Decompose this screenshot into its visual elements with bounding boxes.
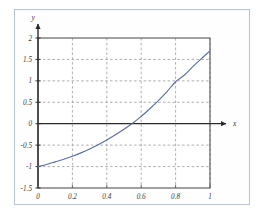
y-tick-label: -0.5 [21,142,33,150]
y-axis-label: y [31,13,36,22]
y-tick-label: 1.5 [23,56,32,64]
plot-area-background [38,38,210,188]
y-tick-label: 2 [28,35,32,43]
x-tick-label: 1 [208,193,212,201]
y-tick-label: -1.5 [21,185,33,193]
chart-canvas: 00.20.40.60.81 -1.5-1-0.500.511.52 y x [0,0,265,216]
x-tick-label: 0.4 [102,193,111,201]
x-axis-label: x [232,119,237,128]
y-tick-label: 0 [28,120,32,128]
figure-root: 00.20.40.60.81 -1.5-1-0.500.511.52 y x [0,0,265,216]
x-tick-label: 0.2 [68,193,77,201]
y-tick-label: 1 [28,77,32,85]
x-tick-label: 0.6 [137,193,146,201]
y-tick-labels: -1.5-1-0.500.511.52 [21,35,33,193]
y-tick-label: 0.5 [23,99,32,107]
x-tick-label: 0 [36,193,40,201]
chart-svg: 00.20.40.60.81 -1.5-1-0.500.511.52 y x [0,0,265,216]
x-tick-label: 0.8 [171,193,180,201]
y-tick-label: -1 [26,163,32,171]
x-tick-labels: 00.20.40.60.81 [36,193,212,201]
